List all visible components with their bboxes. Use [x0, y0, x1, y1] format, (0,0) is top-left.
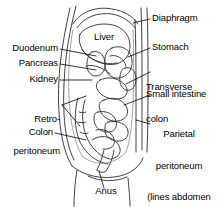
label-pancreas: Pancreas — [0, 58, 58, 69]
diaphragm-group — [73, 8, 138, 28]
spine-column-line — [135, 20, 136, 152]
label-parietal-peritoneum: Parietal peritoneum (lines abdomen and p… — [140, 108, 218, 207]
right-thigh-contour — [128, 178, 130, 206]
colon-sigmoid-loop — [92, 137, 120, 159]
diaphragm-dome-inner — [77, 14, 135, 28]
transverse-colon-loop — [96, 78, 127, 99]
label-small-intestine: Small intestine — [146, 89, 206, 100]
label-colon: Colon — [0, 127, 53, 138]
label-parietal-peritoneum-line2: peritoneum — [140, 161, 218, 172]
label-diaphragm: Diaphragm — [152, 13, 198, 24]
label-kidney: Kidney — [0, 74, 58, 85]
peritoneum-anterior-line — [69, 30, 82, 156]
rectum-outline-right — [106, 150, 114, 171]
left-thigh-contour — [74, 170, 77, 206]
colon-haustra-2 — [78, 122, 86, 123]
label-parietal-peritoneum-line3: (lines abdomen — [140, 192, 218, 203]
colon-haustra-3 — [80, 132, 88, 134]
label-anus: Anus — [86, 186, 126, 197]
transverse-colon-group — [96, 78, 127, 99]
anatomy-diagram-figure: Liver Diaphragm Stomach Transverse colon… — [0, 0, 218, 207]
label-liver: Liver — [94, 32, 114, 43]
small-intestine-coil-1 — [99, 98, 127, 121]
leader-stomach — [128, 48, 150, 57]
label-retroperitoneum-line2: peritoneum — [0, 146, 60, 157]
leader-retroperitoneum-branch-upper — [62, 96, 86, 105]
label-duodenum: Duodenum — [0, 43, 58, 54]
label-retroperitoneum-line1: Retro- — [0, 114, 60, 125]
small-intestine-group — [94, 98, 128, 149]
label-parietal-peritoneum-line1: Parietal — [140, 129, 218, 140]
label-stomach: Stomach — [152, 42, 189, 53]
anal-canal-opening — [97, 170, 106, 172]
